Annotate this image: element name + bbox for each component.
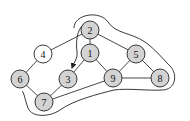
node-4: 4 xyxy=(34,45,52,63)
node-label: 6 xyxy=(18,74,23,85)
graph-canvas: 123456789 xyxy=(0,0,190,121)
node-label: 4 xyxy=(41,49,46,60)
node-7: 7 xyxy=(35,93,53,111)
edge-7-9 xyxy=(44,78,113,102)
node-label: 2 xyxy=(88,25,93,36)
node-3: 3 xyxy=(59,70,77,88)
node-label: 5 xyxy=(134,49,139,60)
edges-layer xyxy=(20,30,160,102)
node-label: 3 xyxy=(66,74,71,85)
node-label: 8 xyxy=(158,73,163,84)
node-label: 1 xyxy=(88,48,93,59)
node-8: 8 xyxy=(151,69,169,87)
node-1: 1 xyxy=(81,44,99,62)
node-label: 9 xyxy=(111,73,116,84)
node-9: 9 xyxy=(104,69,122,87)
node-5: 5 xyxy=(127,45,145,63)
graph-diagram: 123456789 xyxy=(0,0,190,121)
node-label: 7 xyxy=(42,97,47,108)
node-6: 6 xyxy=(11,70,29,88)
nodes-layer: 123456789 xyxy=(11,21,169,111)
node-2: 2 xyxy=(81,21,99,39)
